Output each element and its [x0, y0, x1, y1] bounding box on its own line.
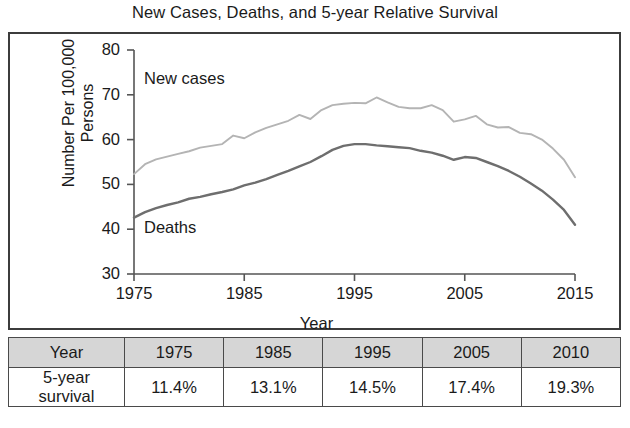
line-chart-plot — [10, 34, 623, 332]
table-header-row: Year 1975 1985 1995 2005 2010 — [9, 338, 621, 368]
table-row-label-line1: 5-year — [9, 368, 124, 387]
table-header-cell-1975: 1975 — [125, 338, 224, 368]
table-cell-survival-1985: 13.1% — [224, 368, 323, 407]
table-row: 5-year survival 11.4% 13.1% 14.5% 17.4% … — [9, 368, 621, 407]
table-row-label-line2: survival — [9, 387, 124, 406]
chart-panel: Number Per 100,000 Persons 304050607080 … — [8, 32, 621, 330]
table-cell-survival-2005: 17.4% — [422, 368, 521, 407]
table-header-cell-2010: 2010 — [521, 338, 620, 368]
series-label-deaths: Deaths — [144, 218, 196, 237]
table-header-cell-1995: 1995 — [323, 338, 422, 368]
figure-root: New Cases, Deaths, and 5-year Relative S… — [0, 0, 630, 428]
table-header-cell-2005: 2005 — [422, 338, 521, 368]
table-cell-survival-2010: 19.3% — [521, 368, 620, 407]
table-cell-survival-1995: 14.5% — [323, 368, 422, 407]
table-row-label: 5-year survival — [9, 368, 125, 407]
table-header-cell-1985: 1985 — [224, 338, 323, 368]
table-header-cell-year: Year — [9, 338, 125, 368]
table-cell-survival-1975: 11.4% — [125, 368, 224, 407]
survival-table: Year 1975 1985 1995 2005 2010 5-year sur… — [8, 337, 621, 407]
series-label-new-cases: New cases — [144, 69, 225, 88]
